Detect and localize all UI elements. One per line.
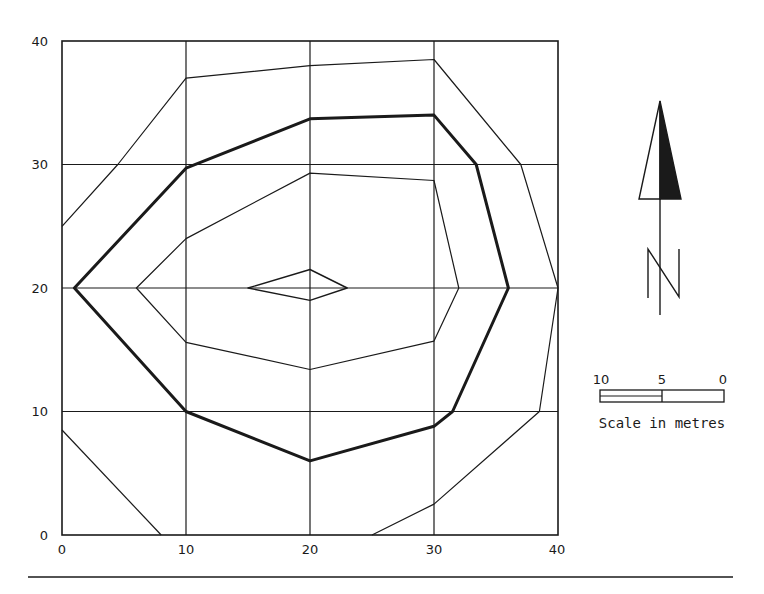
x-tick-label: 20 — [302, 542, 319, 557]
north-n-glyph — [648, 249, 679, 298]
scale-label-0: 0 — [719, 372, 727, 387]
x-tick-label: 40 — [549, 542, 566, 557]
y-tick-label: 10 — [31, 404, 48, 419]
x-tick-label: 10 — [178, 542, 195, 557]
scale-label-10: 10 — [593, 372, 610, 387]
inner-contour — [136, 173, 458, 369]
y-tick-label: 40 — [31, 34, 48, 49]
scale-label-5: 5 — [658, 372, 666, 387]
north-arrow-head-right — [660, 101, 681, 199]
contour-map-figure: 40 30 20 10 0 0 10 20 30 40 10 5 0 Scale… — [0, 0, 764, 594]
north-arrow-head-left — [639, 101, 660, 199]
scale-caption: Scale in metres — [599, 415, 725, 431]
y-tick-label: 0 — [40, 528, 48, 543]
x-axis-labels: 0 10 20 30 40 — [58, 542, 565, 557]
x-tick-label: 0 — [58, 542, 66, 557]
north-arrow-icon — [639, 101, 681, 315]
plot-area: 40 30 20 10 0 0 10 20 30 40 — [31, 34, 565, 557]
y-tick-label: 20 — [31, 281, 48, 296]
outer-contour-bottom-left — [62, 430, 161, 535]
y-axis-labels: 40 30 20 10 0 — [31, 34, 48, 543]
y-tick-label: 30 — [31, 157, 48, 172]
x-tick-label: 30 — [426, 542, 443, 557]
scale-bar: 10 5 0 Scale in metres — [593, 372, 727, 431]
center-contour — [248, 270, 347, 301]
